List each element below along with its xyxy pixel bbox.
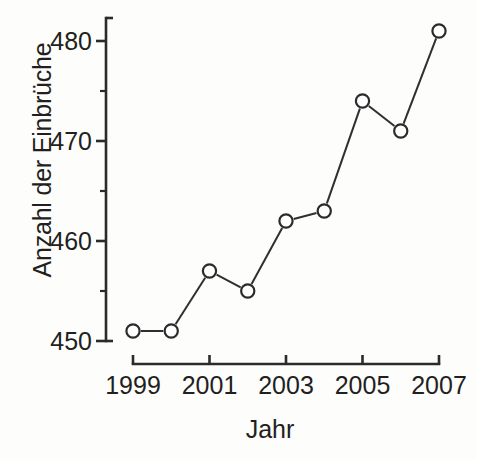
data-point-marker: 2002: 455	[241, 284, 254, 297]
data-series	[141, 38, 436, 331]
y-axis: 450460470480	[50, 18, 113, 355]
line-chart: Anzahl der Einbrüche Jahr 450460470480 1…	[0, 0, 477, 459]
data-point-marker: 2001: 457	[203, 264, 216, 277]
y-tick-label: 470	[50, 127, 92, 155]
y-tick-label: 450	[50, 327, 92, 355]
x-tick-label: 1999	[105, 371, 161, 399]
x-tick-label: 2001	[182, 371, 238, 399]
data-point-marker: 2004: 463	[318, 204, 331, 217]
data-point-marker: 2005: 474	[356, 94, 369, 107]
y-tick-label: 460	[50, 227, 92, 255]
data-point-marker: 2000: 451	[165, 324, 178, 337]
plot-area: 450460470480 19992001200320052007 1999: …	[0, 0, 477, 459]
data-point-marker: 1999: 451	[126, 324, 139, 337]
y-tick-label: 480	[50, 27, 92, 55]
data-point-marker: 2003: 462	[279, 214, 292, 227]
x-axis: 19992001200320052007	[105, 355, 467, 399]
data-point-marker: 2006: 471	[394, 124, 407, 137]
x-tick-label: 2007	[411, 371, 467, 399]
x-tick-label: 2003	[258, 371, 314, 399]
data-markers: 1999: 4512000: 4512001: 4572002: 4552003…	[126, 24, 445, 337]
x-tick-label: 2005	[335, 371, 391, 399]
data-point-marker: 2007: 481	[432, 24, 445, 37]
